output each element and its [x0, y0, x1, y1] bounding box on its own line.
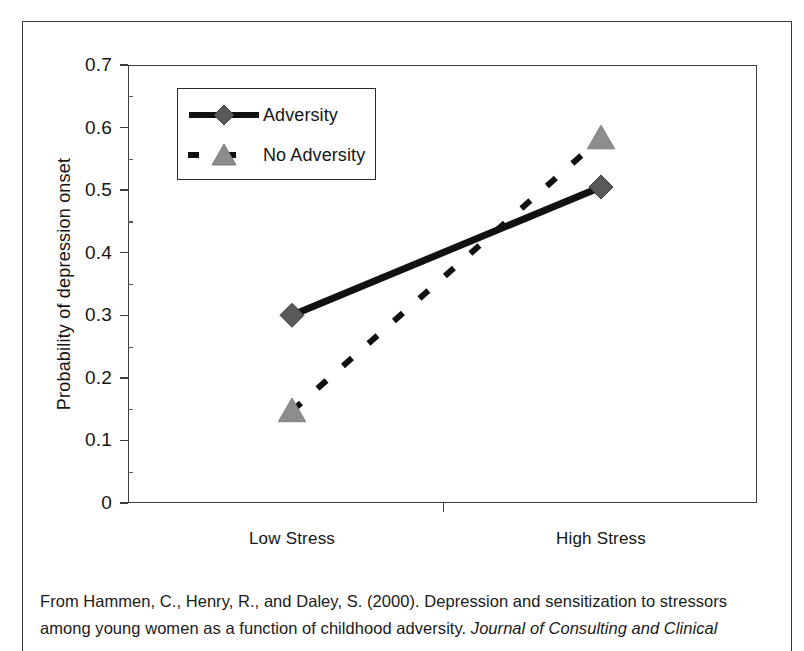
y-tick-label: 0.5 — [85, 178, 112, 202]
caption-line-1: From Hammen, C., Henry, R., and Daley, S… — [40, 588, 770, 615]
caption-line-2: among young women as a function of child… — [40, 615, 770, 642]
x-tick-label-high-stress: High Stress — [556, 528, 646, 550]
y-tick-mark — [120, 64, 128, 65]
caption-line-2-plain: among young women as a function of child… — [40, 619, 471, 637]
caption-journal-name: Journal of Consulting and Clinical — [471, 619, 718, 637]
figure-caption: From Hammen, C., Henry, R., and Daley, S… — [40, 588, 770, 642]
legend-item-adversity: Adversity — [178, 95, 377, 135]
y-tick-mark — [120, 502, 128, 503]
y-tick-label: 0.4 — [85, 241, 112, 265]
x-axis-center-tick — [443, 503, 444, 512]
x-tick-label-low-stress: Low Stress — [249, 528, 335, 550]
y-axis-title: Probability of depression onset — [54, 158, 74, 410]
y-tick-label: 0.3 — [85, 303, 112, 327]
y-tick-label: 0.7 — [85, 53, 112, 77]
chart-plot-wrapper: Probability of depression onset 00.10.20… — [0, 0, 804, 651]
legend-swatch-adversity — [185, 100, 263, 130]
y-tick-label: 0.1 — [85, 428, 112, 452]
y-tick-mark — [120, 189, 128, 190]
figure-root: Probability of depression onset 00.10.20… — [0, 0, 804, 651]
legend-swatch-no-adversity — [185, 140, 263, 170]
legend-label-no-adversity: No Adversity — [263, 144, 365, 166]
y-tick-label: 0.6 — [85, 116, 112, 140]
y-minor-tick — [128, 284, 133, 285]
legend-label-adversity: Adversity — [263, 104, 338, 126]
y-minor-tick — [128, 96, 133, 97]
y-tick-mark — [120, 315, 128, 316]
y-tick-label: 0 — [101, 491, 112, 515]
y-minor-tick — [128, 221, 133, 222]
y-tick-mark — [120, 440, 128, 441]
y-minor-tick — [128, 472, 133, 473]
y-tick-label: 0.2 — [85, 366, 112, 390]
y-minor-tick — [128, 347, 133, 348]
y-tick-mark — [120, 377, 128, 378]
y-tick-mark — [120, 127, 128, 128]
legend-item-no-adversity: No Adversity — [178, 135, 377, 175]
y-minor-tick — [128, 409, 133, 410]
y-tick-mark — [120, 252, 128, 253]
chart-legend: Adversity No Adversity — [177, 88, 376, 180]
y-minor-tick — [128, 159, 133, 160]
